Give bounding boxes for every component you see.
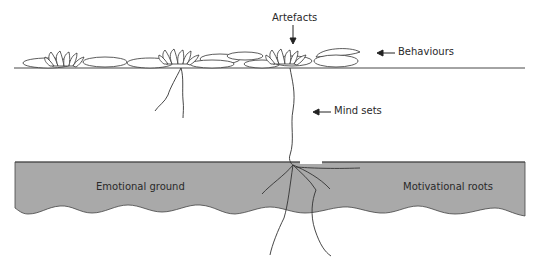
label-mind-sets: Mind sets bbox=[334, 106, 382, 116]
label-emotional-ground: Emotional ground bbox=[96, 182, 185, 192]
lily-flower-left bbox=[45, 51, 84, 67]
water-lily-diagram: Artefacts Behaviours Mind sets Emotional… bbox=[0, 0, 540, 266]
label-motivational-roots: Motivational roots bbox=[403, 182, 493, 192]
label-artefacts: Artefacts bbox=[272, 13, 317, 23]
lily-flower-middle bbox=[159, 49, 199, 65]
annotation-arrows bbox=[290, 25, 395, 115]
label-behaviours: Behaviours bbox=[398, 47, 454, 57]
